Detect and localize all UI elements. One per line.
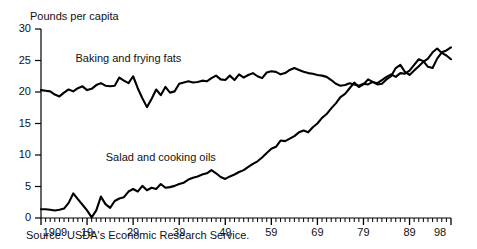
chart-figure: Pounds per capita 051015202530 190919293… [0,0,477,249]
y-tick-label: 10 [5,148,31,160]
x-tick-label: 98 [423,226,457,238]
x-tick-label: 89 [393,226,427,238]
x-tick-label: 79 [346,226,380,238]
x-tick-label: 69 [300,226,334,238]
y-tick-label: 15 [5,117,31,129]
y-tick-label: 25 [5,54,31,66]
y-tick-label: 20 [5,85,31,97]
chart-plot-area [0,0,477,249]
source-note: Source: USDA's Economic Research Service… [26,229,249,241]
y-tick-label: 5 [5,180,31,192]
y-tick-label: 0 [5,211,31,223]
series-label-salad-and-cooking-oils: Salad and cooking oils [106,151,216,163]
series-label-baking-and-frying-fats: Baking and frying fats [76,52,182,64]
x-tick-label: 59 [254,226,288,238]
y-tick-label: 30 [5,22,31,34]
